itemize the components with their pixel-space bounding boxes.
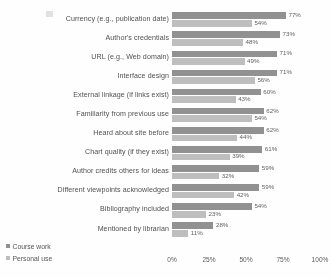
bar-value-label: 56% <box>257 77 269 84</box>
bar-value-label: 71% <box>280 69 292 76</box>
category-label: Author credits others for ideas <box>0 167 169 175</box>
bar-value-label: 59% <box>262 184 274 191</box>
bar-course-work <box>172 12 286 19</box>
bar-personal-use <box>172 230 188 237</box>
category-label: Mentioned by librarian <box>0 225 169 233</box>
bar-value-label: 32% <box>222 173 234 180</box>
bar-personal-use <box>172 39 243 46</box>
chart-row: Heard about site before62%44% <box>0 126 333 145</box>
category-label: URL (e.g., Web domain) <box>0 53 169 61</box>
legend-swatch-icon <box>6 244 10 248</box>
bar-value-label: 77% <box>288 12 300 19</box>
bar-value-label: 23% <box>209 211 221 218</box>
bar-personal-use <box>172 20 252 27</box>
bar-group: 54%23% <box>172 203 332 220</box>
bar-chart: Currency (e.g., publication date)77%54%A… <box>0 0 333 278</box>
bar-value-label: 54% <box>254 115 266 122</box>
bar-value-label: 48% <box>246 39 258 46</box>
bar-personal-use <box>172 192 234 199</box>
bar-group: 71%56% <box>172 70 332 87</box>
bar-course-work <box>172 108 264 115</box>
bar-group: 62%54% <box>172 108 332 125</box>
chart-row: Author credits others for ideas59%32% <box>0 164 333 183</box>
bar-group: 60%43% <box>172 89 332 106</box>
bar-value-label: 62% <box>266 127 278 134</box>
chart-legend: Course workPersonal use <box>6 240 126 264</box>
bar-group: 73%48% <box>172 31 332 48</box>
category-label: Bibliography included <box>0 205 169 213</box>
bar-value-label: 71% <box>280 50 292 57</box>
chart-row: Familiarity from previous use62%54% <box>0 106 333 125</box>
bar-group: 59%42% <box>172 184 332 201</box>
bar-value-label: 44% <box>240 134 252 141</box>
bar-group: 61%39% <box>172 146 332 163</box>
bar-value-label: 54% <box>254 20 266 27</box>
category-label: External linkage (if links exist) <box>0 91 169 99</box>
legend-swatch-icon <box>6 256 10 260</box>
bar-value-label: 59% <box>262 165 274 172</box>
chart-row: Interface design71%56% <box>0 68 333 87</box>
legend-label: Course work <box>13 243 51 250</box>
x-axis-tick: 100% <box>312 256 329 263</box>
bar-course-work <box>172 165 259 172</box>
bar-value-label: 28% <box>216 222 228 229</box>
bar-course-work <box>172 184 259 191</box>
legend-item: Course work <box>6 240 126 252</box>
bar-personal-use <box>172 96 236 103</box>
bar-personal-use <box>172 173 219 180</box>
bar-course-work <box>172 51 277 58</box>
chart-row: External linkage (if links exist)60%43% <box>0 87 333 106</box>
bar-value-label: 39% <box>232 153 244 160</box>
bar-group: 77%54% <box>172 12 332 29</box>
chart-row: Currency (e.g., publication date)77%54% <box>0 11 333 30</box>
chart-row: Bibliography included54%23% <box>0 202 333 221</box>
chart-row: Mentioned by librarian28%11% <box>0 221 333 240</box>
category-label: Heard about site before <box>0 129 169 137</box>
bar-group: 71%49% <box>172 51 332 68</box>
chart-row: Chart quality (if they exist)61%39% <box>0 145 333 164</box>
x-axis-tick: 0% <box>167 256 177 263</box>
x-axis-tick: 75% <box>276 256 289 263</box>
bar-value-label: 62% <box>266 108 278 115</box>
bar-personal-use <box>172 211 206 218</box>
x-axis: 0%25%50%75%100% <box>172 256 332 268</box>
bar-personal-use <box>172 135 237 142</box>
x-axis-tick: 50% <box>239 256 252 263</box>
bar-value-label: 43% <box>238 96 250 103</box>
category-label: Chart quality (if they exist) <box>0 148 169 156</box>
bar-value-label: 73% <box>283 31 295 38</box>
bar-value-label: 42% <box>237 192 249 199</box>
category-label: Author's credentials <box>0 34 169 42</box>
category-label: Currency (e.g., publication date) <box>0 15 169 23</box>
bar-value-label: 60% <box>263 89 275 96</box>
x-axis-tick: 25% <box>202 256 215 263</box>
bar-personal-use <box>172 77 255 84</box>
bar-personal-use <box>172 154 230 161</box>
legend-item: Personal use <box>6 252 126 264</box>
bar-group: 28%11% <box>172 222 332 239</box>
bar-personal-use <box>172 58 245 65</box>
bar-group: 62%44% <box>172 127 332 144</box>
category-label: Different viewpoints acknowledged <box>0 186 169 194</box>
bar-group: 59%32% <box>172 165 332 182</box>
bar-course-work <box>172 146 262 153</box>
chart-row: Different viewpoints acknowledged59%42% <box>0 183 333 202</box>
chart-plot-area: Currency (e.g., publication date)77%54%A… <box>0 11 333 240</box>
bar-personal-use <box>172 115 252 122</box>
category-label: Familiarity from previous use <box>0 110 169 118</box>
bar-value-label: 11% <box>191 230 203 237</box>
category-label: Interface design <box>0 72 169 80</box>
chart-row: Author's credentials73%48% <box>0 30 333 49</box>
bar-value-label: 54% <box>254 203 266 210</box>
bar-course-work <box>172 203 252 210</box>
bar-value-label: 61% <box>265 146 277 153</box>
chart-row: URL (e.g., Web domain)71%49% <box>0 49 333 68</box>
bar-course-work <box>172 31 280 38</box>
bar-value-label: 49% <box>247 58 259 65</box>
legend-label: Personal use <box>13 255 53 262</box>
